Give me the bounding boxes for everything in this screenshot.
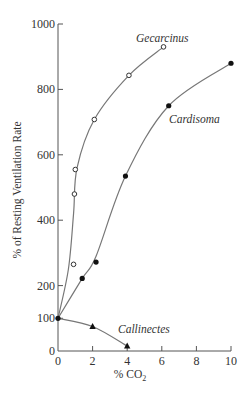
curves [58,47,231,346]
point-cardisoma [80,276,85,281]
y-tick-label: 1000 [31,17,55,31]
point-cardisoma [166,103,171,108]
x-axis-title: % CO2 [114,368,146,383]
ventilation-chart: 01002004006008001000 0246810 % of Restin… [0,0,249,400]
x-tick-label: 4 [124,354,130,368]
y-tick-label: 100 [37,311,55,325]
y-tick-label: 400 [37,213,55,227]
y-axis-title: % of Resting Ventilation Rate [11,121,24,258]
y-tick-label: 200 [37,279,55,293]
point-gecarcinus [72,192,77,197]
point-gecarcinus [92,117,97,122]
y-tick-label: 800 [37,82,55,96]
label-gecarcinus: Gecarcinus [136,32,189,44]
x-tick-label: 2 [90,354,96,368]
x-ticks: 0246810 [55,346,237,368]
x-tick-label: 6 [159,354,165,368]
point-callinectes [124,343,130,349]
point-gecarcinus [127,73,132,78]
x-tick-label: 8 [193,354,199,368]
curve-callinectes [58,318,127,346]
x-tick-label: 10 [225,354,237,368]
point-cardisoma [228,61,233,66]
point-gecarcinus [161,45,166,50]
point-cardisoma [93,259,98,264]
curve-gecarcinus [58,47,164,318]
point-gecarcinus [73,167,78,172]
y-tick-label: 600 [37,148,55,162]
x-tick-label: 0 [55,354,61,368]
point-cardisoma [55,316,60,321]
point-gecarcinus [71,262,76,267]
label-callinectes: Callinectes [118,323,170,335]
axes [58,24,231,351]
data-points [55,45,233,349]
point-cardisoma [123,173,128,178]
label-cardisoma: Cardisoma [169,113,220,125]
